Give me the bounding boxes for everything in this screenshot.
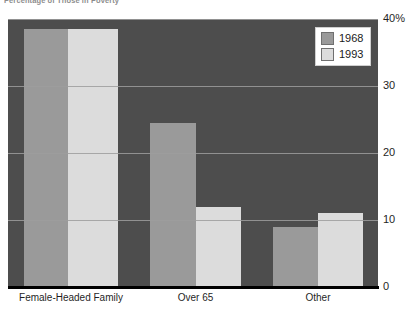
legend: 1968 1993 [315,27,371,66]
y-tick-label-30: 30 [383,80,395,91]
x-axis-label-other: Other [238,293,398,303]
bar-1968-female-headed-family [24,29,68,287]
legend-swatch-icon-1993 [321,48,334,61]
chart-title: Percentage of Those in Poverty [4,0,119,5]
legend-label-1968: 1968 [339,33,363,44]
bar-1968-over-65 [150,123,196,287]
gridline-10 [8,220,378,221]
bar-1968-other [273,227,318,287]
y-tick-label-20: 20 [383,147,395,158]
bar-1993-female-headed-family [68,29,118,287]
legend-item-1968[interactable]: 1968 [321,32,363,45]
legend-swatch-icon-1968 [321,32,334,45]
y-tick-label-40: 40% [383,13,405,24]
gridline-40 [8,19,378,20]
bar-1993-over-65 [196,207,241,287]
gridline-20 [8,153,378,154]
legend-item-1993[interactable]: 1993 [321,48,363,61]
axis-baseline [8,286,379,289]
y-tick-label-10: 10 [383,214,395,225]
bar-1993-other [318,213,363,287]
bar-chart: Percentage of Those in Poverty 010203040… [0,0,417,312]
y-tick-label-0: 0 [383,281,389,292]
legend-label-1993: 1993 [339,49,363,60]
gridline-30 [8,86,378,87]
